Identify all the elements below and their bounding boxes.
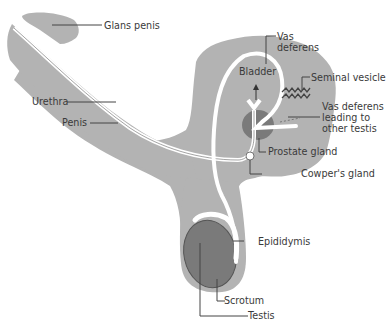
label-prostate-gland: Prostate gland xyxy=(268,146,337,157)
reproductive-anatomy-diagram: Glans penis Urethra Penis Vas deferens B… xyxy=(0,0,390,331)
anatomy-illustration xyxy=(0,0,390,331)
label-glans-penis: Glans penis xyxy=(104,20,160,31)
label-urethra: Urethra xyxy=(32,96,68,107)
label-penis: Penis xyxy=(62,117,87,128)
label-bladder: Bladder xyxy=(239,66,276,77)
label-testis: Testis xyxy=(248,310,275,321)
label-cowpers-gland: Cowper's gland xyxy=(301,168,375,179)
glans-penis xyxy=(22,13,79,44)
label-seminal-vesicle: Seminal vesicle xyxy=(311,72,386,83)
label-vas-deferens: Vas deferens xyxy=(277,31,319,53)
label-vas-deferens-other: Vas deferens leading to other testis xyxy=(322,101,384,134)
cowpers-gland-shape xyxy=(246,152,254,160)
pelvic-region xyxy=(14,36,336,240)
label-scrotum: Scrotum xyxy=(224,295,264,306)
label-epididymis: Epididymis xyxy=(258,236,310,247)
